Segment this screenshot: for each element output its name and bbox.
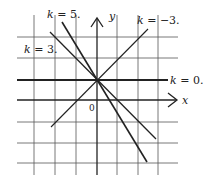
line-k-neg3: [51, 29, 148, 127]
label-k-3: k = 3.: [24, 43, 57, 56]
label-k-neg3: k = −3.: [137, 14, 180, 27]
label-k-0: k = 0.: [170, 74, 203, 87]
x-axis-label: x: [182, 94, 189, 107]
line-family-diagram: k = 5. k = 3. k = −3. k = 0. y x 0: [0, 0, 210, 190]
y-axis-label: y: [108, 10, 116, 23]
y-axis: [91, 18, 103, 175]
line-k-3: [50, 32, 156, 139]
label-k-5: k = 5.: [47, 8, 80, 21]
origin-label: 0: [89, 103, 95, 113]
